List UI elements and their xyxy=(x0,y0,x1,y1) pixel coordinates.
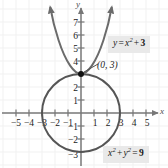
grid-lines xyxy=(0,0,168,168)
circle-equation-label: x2+y2=9 xyxy=(103,146,149,163)
y-tick-label: 5 xyxy=(73,44,78,54)
coordinate-plane: −5 −4 −3 −2 −1 1 2 3 4 5 −3 −2 −1 1 2 4 … xyxy=(0,0,168,168)
x-tick-label: 2 xyxy=(106,118,111,128)
y-tick-label: 7 xyxy=(73,18,78,28)
intersection-point-label: (0, 3) xyxy=(97,61,118,71)
y-tick-label: −1 xyxy=(68,122,78,132)
parabola-equation-text: y=x2+3 xyxy=(113,38,145,48)
x-tick-label: −2 xyxy=(50,118,60,128)
y-axis-tick-labels: −3 −2 −1 1 2 4 5 6 7 xyxy=(68,18,78,161)
y-tick-label: 4 xyxy=(73,57,78,67)
x-tick-label: 1 xyxy=(93,118,98,128)
graph-figure: −5 −4 −3 −2 −1 1 2 3 4 5 −3 −2 −1 1 2 4 … xyxy=(0,0,168,168)
x-axis-label: x xyxy=(160,107,164,116)
circle-equation-text: x2+y2=9 xyxy=(108,148,144,158)
x-tick-label: −4 xyxy=(24,118,34,128)
x-tick-label: 4 xyxy=(132,118,137,128)
y-tick-label: 2 xyxy=(73,83,78,93)
parabola-equation-label: y=x2+3 xyxy=(108,36,150,53)
y-tick-label: −2 xyxy=(68,135,78,145)
x-tick-label: −5 xyxy=(11,118,21,128)
y-tick-label: 6 xyxy=(73,31,78,41)
y-axis-label: y xyxy=(76,0,80,9)
x-tick-label: 5 xyxy=(145,118,150,128)
y-tick-label: 1 xyxy=(73,96,78,106)
intersection-point-marker xyxy=(78,71,84,77)
